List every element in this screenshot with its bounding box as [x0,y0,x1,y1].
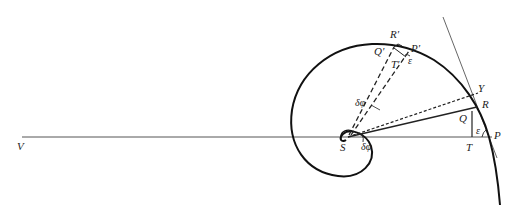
radius-sq-prime-dashed [349,47,394,135]
label-dphi-upper: δφ [355,97,366,108]
label-r: R [481,98,489,110]
label-r-prime: R′ [389,28,400,40]
label-t-prime: T′ [391,58,400,70]
label-v: V [17,140,25,152]
label-p-prime: P′ [410,42,421,54]
epsilon-arc-p [482,130,486,137]
label-p: P [493,129,501,141]
radius-sp-prime-dashed [351,51,409,135]
label-q: Q [459,112,467,124]
dphi-tick-upper [371,105,380,110]
label-s: S [340,141,346,153]
label-t: T [466,141,473,153]
label-epsilon-prime: ε [408,55,412,66]
label-q-prime: Q′ [374,45,385,57]
spiral-diagram: V S δφ T P Q R Y ε R′ Q′ P′ T′ ε δφ [0,0,521,209]
label-epsilon: ε [476,125,480,136]
label-y: Y [478,82,486,94]
label-dphi-lower: δφ [361,141,372,152]
segment-q-prime-t-prime [394,48,406,57]
